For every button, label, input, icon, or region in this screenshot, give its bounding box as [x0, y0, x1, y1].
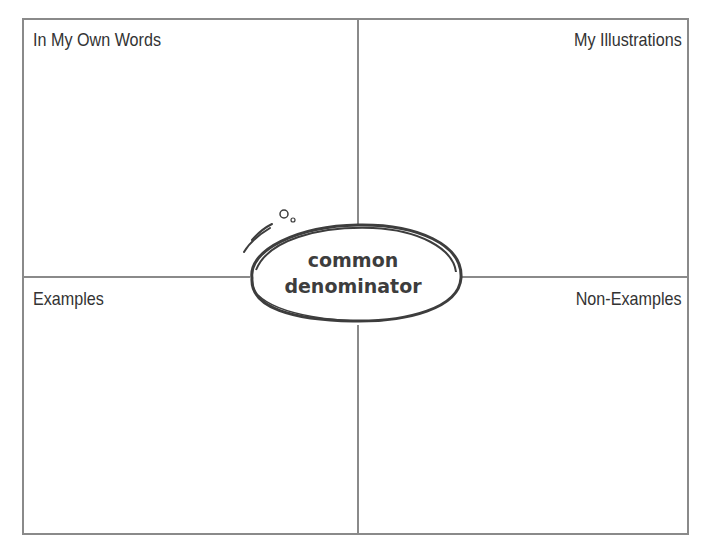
term-line-2: denominator — [238, 273, 468, 299]
quadrant-label-non-examples: Non-Examples — [576, 288, 682, 310]
quadrant-label-own-words: In My Own Words — [33, 29, 161, 51]
term-text: common denominator — [238, 247, 468, 299]
quadrant-label-illustrations: My Illustrations — [574, 29, 682, 51]
term-line-1: common — [238, 247, 468, 273]
center-term-bubble: common denominator — [238, 200, 468, 330]
quadrant-label-examples: Examples — [33, 288, 104, 310]
